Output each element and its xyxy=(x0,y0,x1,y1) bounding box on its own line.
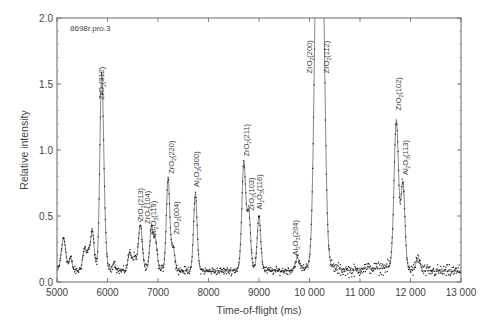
x-tick-label: 6000 xyxy=(96,287,119,298)
y-tick-label: 1.5 xyxy=(39,79,53,90)
x-tick-label: 12 000 xyxy=(395,287,426,298)
y-tick-label: 0.0 xyxy=(39,277,53,288)
sample-label: 8698r.pro.3 xyxy=(70,24,111,33)
x-tick-label: 7000 xyxy=(147,287,170,298)
observed-data-points xyxy=(57,0,462,278)
x-axis: 5000600070008000900010 00011 00012 00013… xyxy=(46,18,477,298)
diffraction-chart: 5000600070008000900010 00011 00012 00013… xyxy=(0,0,499,331)
y-tick-label: 2.0 xyxy=(39,13,53,24)
peak-label: ZrO2(102) xyxy=(394,77,404,111)
peak-label: Al2O3(116) xyxy=(255,174,265,210)
x-tick-label: 11 000 xyxy=(345,287,375,298)
x-axis-label: Time-of-flight (ms) xyxy=(217,304,302,316)
x-tick-label: 9000 xyxy=(248,287,271,298)
peak-label: ZrO2(112) xyxy=(322,40,332,73)
peak-label: Al2O3(204) xyxy=(291,220,301,256)
fitted-profile-line xyxy=(57,0,461,271)
x-tick-label: 8000 xyxy=(197,287,220,298)
peak-label: ZrO2(220) xyxy=(167,140,177,174)
peak-label: ZrO2(312) xyxy=(97,66,107,100)
y-tick-label: 0.5 xyxy=(39,211,53,222)
x-tick-label: 10 000 xyxy=(294,287,325,298)
x-tick-label: 5000 xyxy=(46,287,69,298)
x-tick-label: 13 000 xyxy=(446,287,477,298)
y-axis-label: Relative intensity xyxy=(18,110,30,190)
peak-annotations: ZrO2(312)ZrO2(213)ZrO2(104)Al2O3(119)ZrO… xyxy=(97,40,411,256)
y-tick-label: 1.0 xyxy=(39,145,53,156)
peak-label: ZrO2(004) xyxy=(172,201,182,235)
peak-label: ZrO2(200) xyxy=(305,40,315,74)
peak-label: Al2O3(119) xyxy=(149,200,159,236)
peak-label: Al2O3(300) xyxy=(192,151,202,187)
peak-label: ZrO2(211) xyxy=(242,123,252,156)
peak-label: Al2O3(113) xyxy=(401,140,411,176)
